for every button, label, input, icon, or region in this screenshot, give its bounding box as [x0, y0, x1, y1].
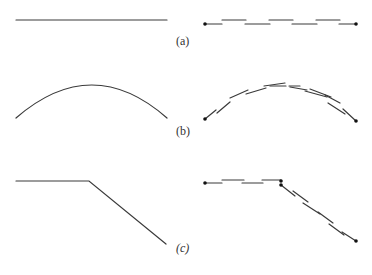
panel-a-label: (a): [176, 35, 189, 47]
panel-c-corner-point-bottom: [279, 183, 283, 187]
panel-b-segmented-arc: [205, 83, 356, 121]
panel-c-continuous-bent-line: [16, 181, 166, 244]
panel-c-segmented-bent-line: [205, 180, 356, 241]
panel-c-label: (c): [176, 242, 189, 254]
panel-c-start-point: [203, 181, 207, 185]
panel-a-end-point: [354, 22, 358, 26]
panel-a-segmented-line: [205, 20, 356, 24]
panel-b-continuous-arc: [16, 85, 167, 118]
panel-c-corner-point-top: [279, 179, 283, 183]
panel-c-end-point: [354, 239, 358, 243]
panel-a-start-point: [203, 22, 207, 26]
panel-b-end-point: [354, 119, 358, 123]
panel-b-label: (b): [176, 125, 190, 137]
panel-b-start-point: [203, 117, 207, 121]
